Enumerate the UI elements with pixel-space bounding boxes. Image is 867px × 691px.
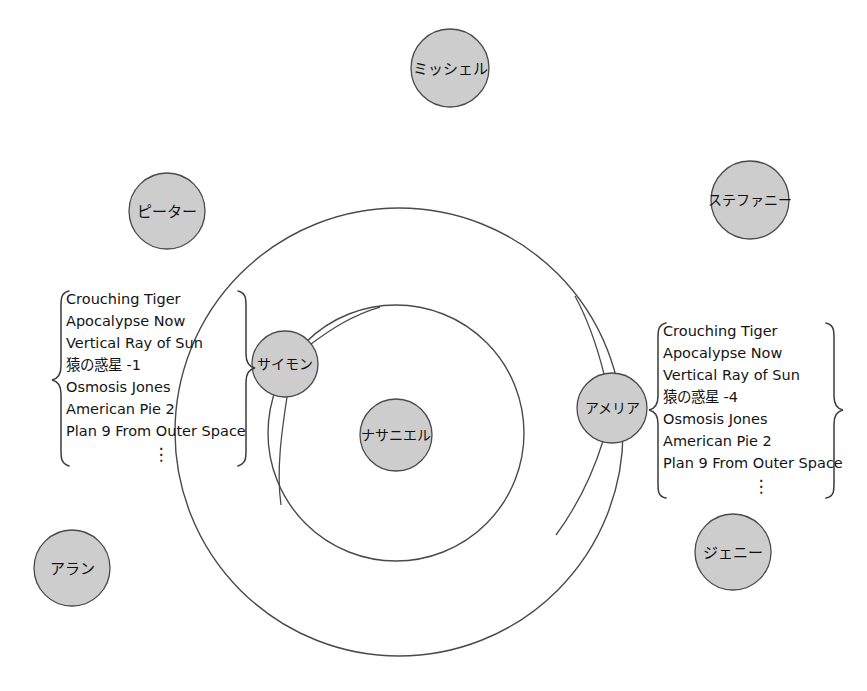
node-simon-label: サイモン [257,356,313,372]
simon-movie-list: Crouching Tiger Apocalypse Now Vertical … [66,288,256,464]
node-simon[interactable]: サイモン [252,331,318,397]
list-continuation: ⋮ [663,474,859,496]
list-item: American Pie 2 [66,398,256,420]
list-item: Osmosis Jones [663,408,859,430]
node-jenny-label: ジェニー [703,544,763,562]
list-item: Apocalypse Now [663,342,859,364]
list-item: Vertical Ray of Sun [66,332,256,354]
edge-amelia-upper [575,296,604,374]
node-peter-label: ピーター [137,203,197,221]
node-jenny[interactable]: ジェニー [695,514,771,590]
list-item: 猿の惑星 -1 [66,354,256,376]
node-alan[interactable]: アラン [34,530,110,606]
edge-amelia-lower [556,441,603,535]
node-amelia-label: アメリア [585,400,640,416]
list-item: Plan 9 From Outer Space [663,452,859,474]
node-michelle-label: ミッシェル [413,60,488,78]
list-item: 猿の惑星 -4 [663,386,859,408]
edge-simon-upper [311,307,380,344]
list-item: Plan 9 From Outer Space [66,420,256,442]
list-item: Vertical Ray of Sun [663,364,859,386]
node-amelia[interactable]: アメリア [577,373,647,443]
node-nathaniel[interactable]: ナサニエル [360,399,432,471]
list-item: Crouching Tiger [663,320,859,342]
node-michelle[interactable]: ミッシェル [411,29,489,107]
diagram-canvas: サイモン ナサニエル アメリア ミッシェル ピーター ステファニー アラン [0,0,867,691]
node-stephanie[interactable]: ステファニー [708,161,792,239]
node-nathaniel-label: ナサニエル [361,427,431,443]
node-peter[interactable]: ピーター [129,173,205,249]
list-continuation: ⋮ [66,442,256,464]
list-item: American Pie 2 [663,430,859,452]
node-alan-label: アラン [50,560,95,578]
amelia-movie-list: Crouching Tiger Apocalypse Now Vertical … [663,320,859,496]
list-item: Osmosis Jones [66,376,256,398]
list-item: Apocalypse Now [66,310,256,332]
node-stephanie-label: ステファニー [708,192,792,208]
list-item: Crouching Tiger [66,288,256,310]
